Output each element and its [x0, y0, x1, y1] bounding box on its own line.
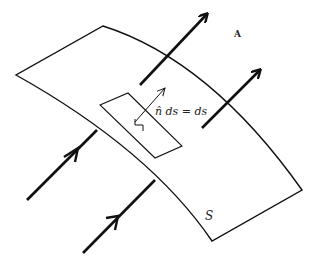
field-arrow-right — [202, 70, 260, 128]
element-equation-label: n̂ ds = ds — [155, 105, 208, 118]
flux-diagram: A n̂ ds = ds S — [0, 0, 315, 269]
field-label: A — [233, 29, 242, 39]
surface-label: S — [205, 209, 213, 223]
field-arrow-top — [140, 14, 207, 85]
surface-s — [16, 26, 302, 241]
field-arrow-left — [27, 130, 97, 200]
